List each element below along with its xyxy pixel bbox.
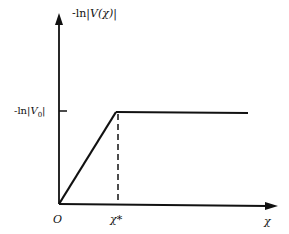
y-tick-label-v0: -ln|V0| (14, 106, 45, 119)
x-tick-label-chi-star: χ* (110, 214, 122, 225)
origin-label: O (53, 214, 62, 225)
plateau-segment (116, 112, 248, 113)
x-axis (59, 202, 278, 210)
y-axis (55, 13, 63, 204)
y-axis-arrow-icon (55, 13, 63, 25)
y-axis-label: -ln|V(χ)| (72, 8, 117, 19)
x-axis-label: χ (264, 216, 271, 227)
rising-segment (59, 112, 116, 204)
x-axis-arrow-icon (265, 202, 278, 210)
